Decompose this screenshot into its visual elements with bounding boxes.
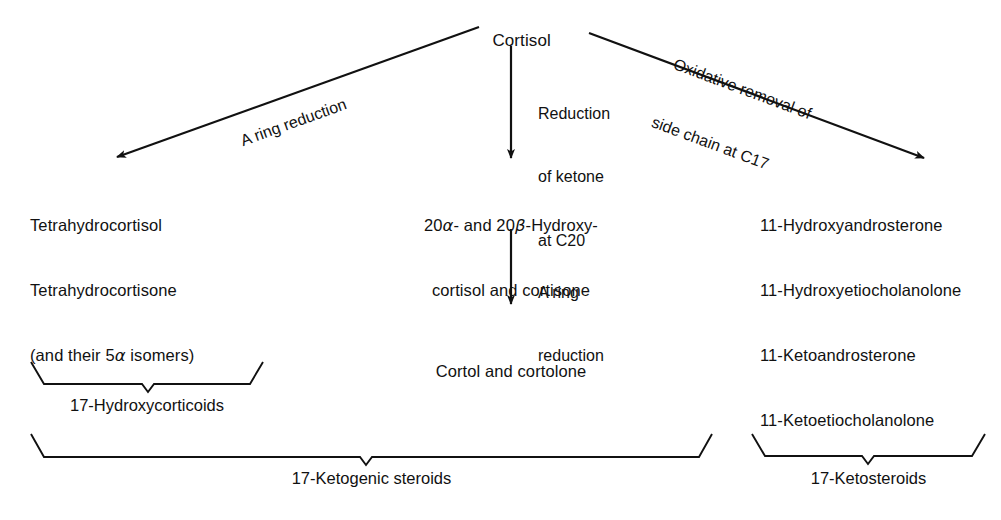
group-label-hydroxycorticoids: 17-Hydroxycorticoids bbox=[31, 396, 263, 415]
product-tetrahydrocortisone: Tetrahydrocortisone bbox=[30, 280, 194, 302]
product-20-hydroxy-line1: 20α- and 20β-Hydroxy- bbox=[411, 215, 611, 237]
greek-alpha-2: α bbox=[443, 216, 454, 235]
group-label-ketogenic-steroids: 17-Ketogenic steroids bbox=[31, 469, 712, 488]
edge-label-oxidative-line1: Oxidative removal of bbox=[670, 54, 814, 124]
product-20-pre: 20 bbox=[424, 216, 443, 234]
node-cortisol-label: Cortisol bbox=[492, 31, 550, 50]
product-5a-isomers-post: isomers) bbox=[126, 346, 195, 364]
product-20-mid: - and 20 bbox=[454, 216, 515, 234]
product-20-hydroxy-line2: cortisol and cortisone bbox=[411, 280, 611, 302]
edge-label-a-ring-reduction: A ring reduction bbox=[215, 75, 357, 177]
product-11-ketoetiocholanolone: 11-Ketoetiocholanolone bbox=[760, 410, 961, 432]
node-androsterone-products: 11-Hydroxyandrosterone 11-Hydroxyetiocho… bbox=[760, 171, 961, 476]
group-label-ketosteroids: 17-Ketosteroids bbox=[752, 469, 985, 488]
product-cortol-cortolone: Cortol and cortolone bbox=[411, 361, 611, 383]
greek-alpha: α bbox=[115, 346, 126, 365]
edge-label-reduction-line1: Reduction bbox=[538, 103, 610, 124]
product-5a-isomers-pre: (and their 5 bbox=[30, 346, 115, 364]
group-label-ketosteroids-text: 17-Ketosteroids bbox=[811, 469, 927, 487]
edge-label-a-ring-reduction-text: A ring reduction bbox=[238, 95, 348, 149]
product-11-hydroxyandrosterone: 11-Hydroxyandrosterone bbox=[760, 215, 961, 237]
node-cortol-cortolone: Cortol and cortolone bbox=[411, 317, 611, 426]
node-tetrahydro-products: Tetrahydrocortisol Tetrahydrocortisone (… bbox=[30, 171, 194, 410]
brace-ketogenic-steroids bbox=[31, 434, 712, 465]
group-label-ketogenic-steroids-text: 17-Ketogenic steroids bbox=[292, 469, 452, 487]
cortisol-metabolism-diagram: Cortisol A ring reduction Reduction of k… bbox=[0, 0, 1001, 520]
product-11-ketoandrosterone: 11-Ketoandrosterone bbox=[760, 345, 961, 367]
product-20-post: -Hydroxy- bbox=[526, 216, 598, 234]
greek-beta: β bbox=[515, 216, 526, 235]
product-5a-isomers: (and their 5α isomers) bbox=[30, 345, 194, 367]
product-tetrahydrocortisol: Tetrahydrocortisol bbox=[30, 215, 194, 237]
product-11-hydroxyetiocholanolone: 11-Hydroxyetiocholanolone bbox=[760, 280, 961, 302]
group-label-hydroxycorticoids-text: 17-Hydroxycorticoids bbox=[70, 396, 224, 414]
